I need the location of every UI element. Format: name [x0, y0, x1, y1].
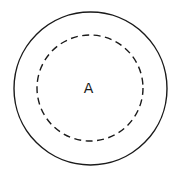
circle-diagram: A [0, 0, 182, 176]
center-label: A [84, 80, 94, 96]
